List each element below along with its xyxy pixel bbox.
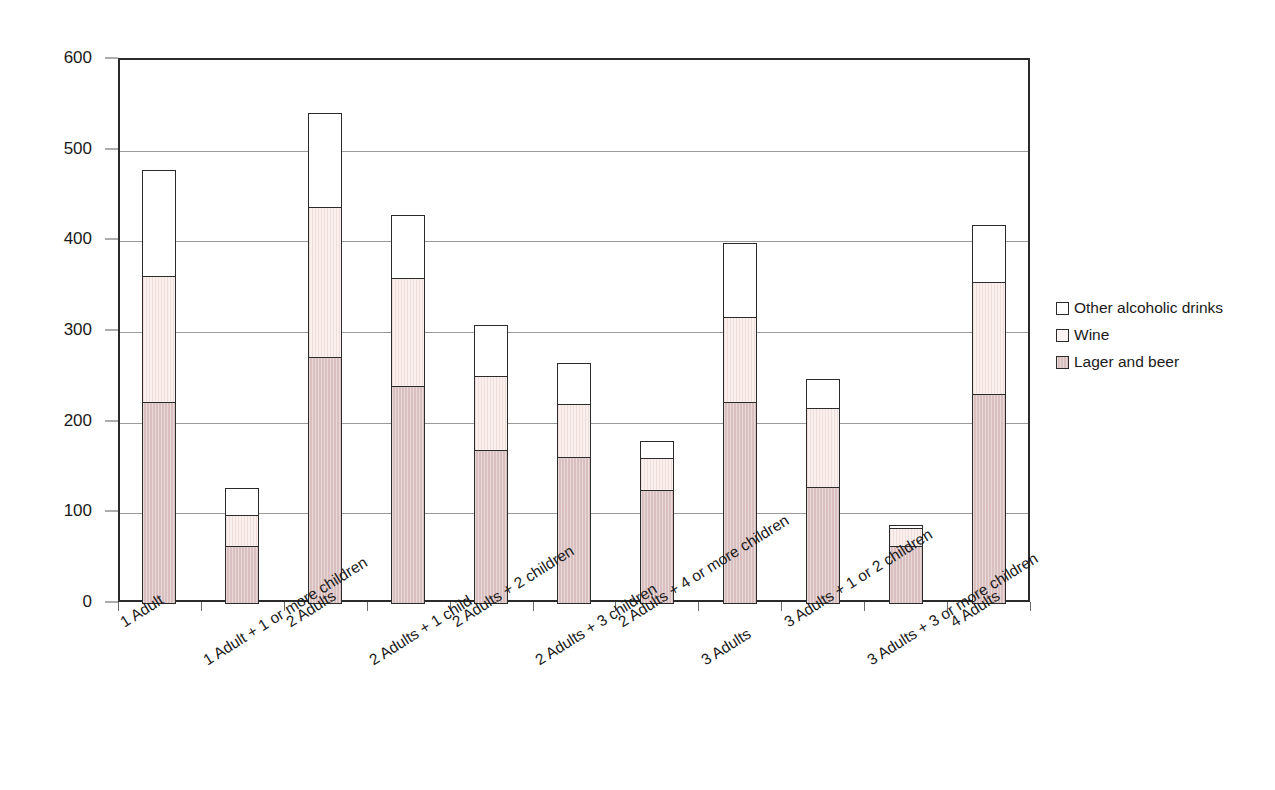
legend-swatch-icon [1056, 329, 1069, 342]
bar-group [142, 58, 176, 602]
bar-segment-wine[interactable] [640, 458, 674, 492]
stacked-bar[interactable] [474, 320, 508, 602]
stacked-bar[interactable] [806, 374, 840, 602]
bar-segment-other[interactable] [391, 215, 425, 279]
bar-segment-other[interactable] [972, 225, 1006, 283]
bar-group [225, 58, 259, 602]
bar-segment-other[interactable] [142, 170, 176, 278]
bar-segment-wine[interactable] [391, 278, 425, 388]
x-axis-label: 3 Adults [698, 625, 754, 669]
legend-item[interactable]: Lager and beer [1056, 350, 1271, 374]
y-axis-tick-label: 400 [64, 229, 92, 249]
bar-segment-lager[interactable] [391, 386, 425, 604]
legend-item-label: Other alcoholic drinks [1074, 300, 1223, 316]
legend-swatch-icon [1056, 356, 1069, 369]
bar-segment-lager[interactable] [225, 546, 259, 604]
y-axis-tick-mark [105, 330, 118, 331]
bar-group [723, 58, 757, 602]
y-axis-tick-label: 600 [64, 48, 92, 68]
bar-group [640, 58, 674, 602]
bar-segment-wine[interactable] [972, 282, 1006, 396]
bar-segment-other[interactable] [225, 488, 259, 516]
y-axis-tick-mark [105, 58, 118, 59]
bar-segment-other[interactable] [308, 113, 342, 209]
legend-item-label: Lager and beer [1074, 354, 1179, 370]
bar-segment-wine[interactable] [557, 404, 591, 458]
bars-layer [118, 58, 1030, 602]
legend-item[interactable]: Wine [1056, 323, 1271, 347]
y-axis-tick-mark [105, 148, 118, 149]
bar-segment-wine[interactable] [142, 276, 176, 404]
stacked-bar[interactable] [308, 108, 342, 602]
stacked-bar[interactable] [391, 210, 425, 602]
y-axis-tick-label: 200 [64, 411, 92, 431]
legend-item-label: Wine [1074, 327, 1109, 343]
bar-segment-wine[interactable] [723, 317, 757, 404]
stacked-bar[interactable] [640, 436, 674, 602]
legend-swatch-icon [1056, 302, 1069, 315]
y-axis-tick-label: 500 [64, 139, 92, 159]
bar-group [889, 58, 923, 602]
bar-group [557, 58, 591, 602]
y-axis-tick-mark [105, 511, 118, 512]
stacked-bar[interactable] [142, 165, 176, 602]
y-axis-tick-label: 100 [64, 501, 92, 521]
bar-segment-lager[interactable] [557, 457, 591, 604]
y-axis-tick-mark [105, 420, 118, 421]
x-axis-labels: 1 Adult1 Adult + 1 or more children2 Adu… [0, 602, 1275, 790]
bar-segment-lager[interactable] [474, 450, 508, 603]
bar-segment-wine[interactable] [806, 408, 840, 488]
bar-group [972, 58, 1006, 602]
bar-segment-wine[interactable] [474, 376, 508, 452]
bar-group [474, 58, 508, 602]
y-axis-tick-mark [105, 239, 118, 240]
bar-segment-other[interactable] [474, 325, 508, 378]
y-axis-tick-label: 300 [64, 320, 92, 340]
bar-segment-wine[interactable] [225, 515, 259, 548]
bar-segment-other[interactable] [557, 363, 591, 406]
chart-legend: Other alcoholic drinksWineLager and beer [1056, 296, 1271, 377]
bar-segment-lager[interactable] [723, 402, 757, 603]
bar-segment-other[interactable] [640, 441, 674, 460]
stacked-bar[interactable] [225, 483, 259, 602]
stacked-bar[interactable] [972, 220, 1006, 602]
bar-group [391, 58, 425, 602]
bar-segment-lager[interactable] [142, 402, 176, 603]
bar-segment-wine[interactable] [308, 207, 342, 358]
stacked-bar-chart: 0100200300400500600 1 Adult1 Adult + 1 o… [0, 0, 1275, 790]
bar-group [806, 58, 840, 602]
legend-item[interactable]: Other alcoholic drinks [1056, 296, 1271, 320]
bar-segment-other[interactable] [806, 379, 840, 410]
bar-group [308, 58, 342, 602]
bar-segment-other[interactable] [723, 243, 757, 318]
bar-segment-lager[interactable] [308, 357, 342, 604]
